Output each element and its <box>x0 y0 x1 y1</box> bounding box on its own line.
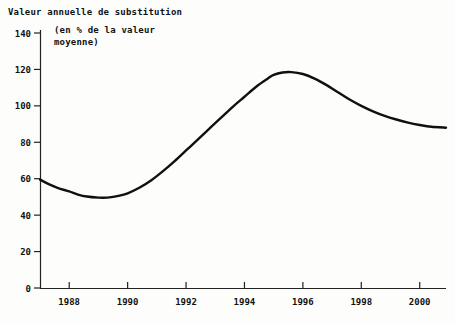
x-tick-label: 1988 <box>58 297 80 307</box>
y-tick-label: 20 <box>20 247 31 257</box>
y-tick-label: 120 <box>15 65 31 75</box>
x-axis-ticks: 1988199019921994199619982000 <box>58 282 430 307</box>
x-tick-label: 1994 <box>234 297 256 307</box>
y-tick-label: 60 <box>20 174 31 184</box>
x-tick-label: 1998 <box>350 297 372 307</box>
x-tick-label: 1990 <box>117 297 139 307</box>
y-tick-label: 80 <box>20 138 31 148</box>
data-series-layer <box>40 72 446 198</box>
plot-area: 020406080100120140 198819901992199419961… <box>0 0 455 325</box>
y-tick-label: 140 <box>15 29 31 39</box>
y-tick-label: 0 <box>26 284 31 294</box>
series-line <box>40 72 446 198</box>
x-tick-label: 1992 <box>175 297 197 307</box>
y-tick-label: 40 <box>20 211 31 221</box>
x-tick-label: 2000 <box>409 297 431 307</box>
y-tick-label: 100 <box>15 101 31 111</box>
chart-figure: Valeur annuelle de substitution (en % de… <box>0 0 455 325</box>
x-tick-label: 1996 <box>292 297 314 307</box>
y-axis-ticks: 020406080100120140 <box>15 29 41 294</box>
